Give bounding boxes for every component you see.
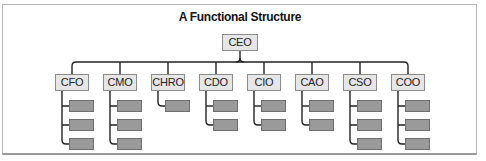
node-cmo-child: [117, 100, 142, 112]
node-cfo-child: [69, 119, 94, 131]
node-cdo-child: [213, 119, 238, 131]
node-cfo: CFO: [55, 74, 89, 91]
node-cso-child: [357, 138, 382, 150]
node-cmo-child: [117, 119, 142, 131]
node-cdo: CDO: [199, 74, 233, 91]
node-cdo-child: [213, 100, 238, 112]
node-cmo-child: [117, 138, 142, 150]
node-cio-child: [261, 100, 286, 112]
node-ceo: CEO: [222, 34, 258, 51]
node-coo-child: [405, 119, 430, 131]
node-cio: CIO: [247, 74, 281, 91]
node-cmo: CMO: [103, 74, 137, 91]
node-cio-child: [261, 119, 286, 131]
node-cfo-child: [69, 100, 94, 112]
node-cao-child: [309, 100, 334, 112]
node-coo: COO: [391, 74, 425, 91]
node-coo-child: [405, 100, 430, 112]
node-cao-child: [309, 119, 334, 131]
node-cao: CAO: [295, 74, 329, 91]
node-cso: CSO: [343, 74, 377, 91]
node-cso-child: [357, 100, 382, 112]
node-chro: CHRO: [151, 74, 185, 91]
node-chro-child: [165, 100, 190, 112]
node-cfo-child: [69, 138, 94, 150]
node-coo-child: [405, 138, 430, 150]
node-cso-child: [357, 119, 382, 131]
